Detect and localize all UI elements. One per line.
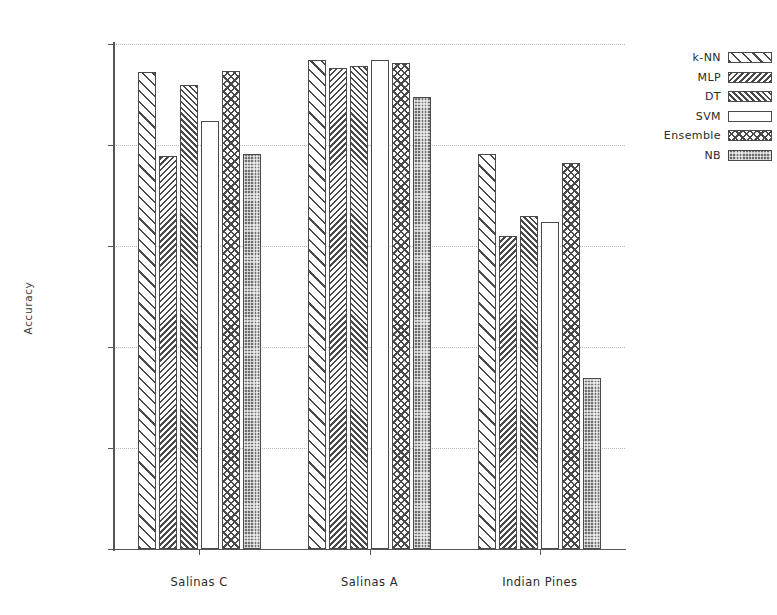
bar-group: Salinas A	[308, 44, 431, 549]
bar-chart: Accuracy 0 %20 %40 %60 %80 %100 % Salina…	[0, 0, 777, 615]
legend-item-label: SVM	[696, 110, 721, 123]
legend-item-ensemble[interactable]: Ensemble	[636, 126, 772, 146]
legend-item-label: Ensemble	[664, 129, 721, 142]
y-axis-label: Accuracy	[14, 0, 42, 615]
bar-group-bars	[138, 44, 261, 549]
legend-item-label: k-NN	[693, 51, 721, 64]
bar-ensemble-indian-pines[interactable]	[562, 163, 580, 549]
bar-group: Indian Pines	[478, 44, 601, 549]
x-tick-label: Salinas A	[341, 575, 398, 589]
bar-dt-indian-pines[interactable]	[520, 216, 538, 549]
legend-item-svm[interactable]: SVM	[636, 107, 772, 127]
x-axis-line	[113, 549, 626, 551]
y-axis-line	[113, 42, 115, 551]
bar-dt-salinas-c[interactable]	[180, 85, 198, 549]
legend-swatch-k-nn-icon	[728, 52, 772, 63]
bar-mlp-salinas-a[interactable]	[329, 68, 347, 549]
bar-svm-indian-pines[interactable]	[541, 222, 559, 549]
bar-k-nn-salinas-c[interactable]	[138, 72, 156, 549]
legend-item-label: NB	[704, 149, 721, 162]
bar-group-bars	[478, 44, 601, 549]
legend-item-label: MLP	[698, 71, 721, 84]
legend-swatch-nb-icon	[728, 150, 772, 161]
legend-swatch-svm-icon	[728, 111, 772, 122]
bar-ensemble-salinas-c[interactable]	[222, 71, 240, 549]
bar-k-nn-salinas-a[interactable]	[308, 60, 326, 549]
legend-swatch-dt-icon	[728, 91, 772, 102]
bar-nb-salinas-a[interactable]	[413, 97, 431, 549]
legend-swatch-ensemble-icon	[728, 130, 772, 141]
bar-group: Salinas C	[138, 44, 261, 549]
bar-mlp-salinas-c[interactable]	[159, 156, 177, 549]
bar-nb-indian-pines[interactable]	[583, 378, 601, 549]
bar-nb-salinas-c[interactable]	[243, 154, 261, 549]
legend: k-NNMLPDTSVMEnsembleNB	[636, 48, 772, 165]
bar-k-nn-indian-pines[interactable]	[478, 154, 496, 549]
bar-svm-salinas-a[interactable]	[371, 60, 389, 549]
bar-group-bars	[308, 44, 431, 549]
bar-mlp-indian-pines[interactable]	[499, 236, 517, 549]
bar-ensemble-salinas-a[interactable]	[392, 63, 410, 549]
legend-item-mlp[interactable]: MLP	[636, 68, 772, 88]
x-tick-label: Salinas C	[171, 575, 228, 589]
bar-dt-salinas-a[interactable]	[350, 66, 368, 549]
y-axis-label-text: Accuracy	[22, 281, 34, 334]
plot-area: Salinas CSalinas AIndian Pines	[114, 44, 625, 549]
legend-item-dt[interactable]: DT	[636, 87, 772, 107]
legend-swatch-mlp-icon	[728, 72, 772, 83]
legend-item-label: DT	[705, 90, 721, 103]
x-tick-label: Indian Pines	[502, 575, 577, 589]
legend-item-nb[interactable]: NB	[636, 146, 772, 166]
bar-svm-salinas-c[interactable]	[201, 121, 219, 549]
legend-item-k-nn[interactable]: k-NN	[636, 48, 772, 68]
